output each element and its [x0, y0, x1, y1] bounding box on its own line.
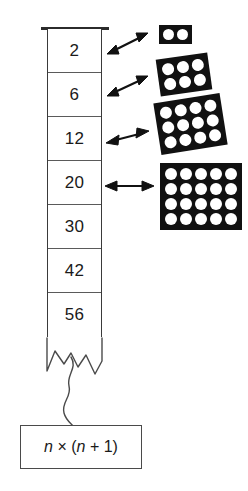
dot — [189, 101, 203, 115]
dot — [159, 106, 173, 120]
number-cell-value: 20 — [65, 173, 85, 193]
dot — [177, 29, 188, 40]
dot — [191, 58, 205, 72]
dot — [210, 213, 222, 225]
formula-n-1: n — [44, 438, 53, 456]
dot — [165, 168, 177, 180]
number-cell-2[interactable]: 6 — [48, 73, 101, 117]
number-cell-4[interactable]: 20 — [48, 161, 101, 205]
dot — [225, 168, 237, 180]
dot — [179, 133, 193, 147]
arrow-to-6 — [102, 70, 154, 102]
formula-n-2: n — [77, 438, 86, 456]
arrow-to-2 — [102, 28, 154, 60]
dot — [164, 135, 178, 149]
formula-box[interactable]: n × (n + 1) — [20, 425, 142, 469]
dot — [195, 183, 207, 195]
dot — [195, 168, 207, 180]
dot — [210, 168, 222, 180]
number-cell-value: 30 — [65, 217, 85, 237]
number-cell-5[interactable]: 30 — [48, 205, 101, 249]
number-cell-value: 6 — [70, 85, 80, 105]
dot-array-12[interactable] — [153, 93, 227, 155]
formula-tail: + 1) — [85, 438, 117, 456]
dot — [204, 99, 218, 113]
dot — [174, 103, 188, 117]
dot — [165, 213, 177, 225]
dot — [176, 118, 190, 132]
dot — [176, 60, 190, 74]
dot-array-6[interactable] — [156, 53, 213, 97]
dot — [193, 73, 207, 87]
dot — [225, 213, 237, 225]
dot — [180, 198, 192, 210]
diagram-canvas: 2 6 12 20 30 42 56 n × (n + 1) — [0, 0, 248, 491]
number-cell-value: 56 — [65, 305, 85, 325]
dot — [180, 183, 192, 195]
dot — [193, 131, 207, 145]
arrow-to-12 — [102, 120, 154, 152]
dot — [165, 183, 177, 195]
formula-operator: × ( — [53, 438, 77, 456]
dot — [163, 29, 174, 40]
dot — [210, 183, 222, 195]
dot — [191, 116, 205, 130]
number-cell-6[interactable]: 42 — [48, 249, 101, 293]
dot — [165, 198, 177, 210]
dot — [180, 213, 192, 225]
dot — [225, 183, 237, 195]
dot — [210, 198, 222, 210]
number-column: 2 6 12 20 30 42 56 — [47, 29, 102, 337]
dot — [195, 213, 207, 225]
dot — [161, 121, 175, 135]
dot — [178, 75, 192, 89]
dot-array-20[interactable] — [160, 163, 242, 230]
dot — [206, 114, 220, 128]
number-cell-3[interactable]: 12 — [48, 117, 101, 161]
number-cell-value: 2 — [70, 41, 80, 61]
number-cell-7[interactable]: 56 — [48, 293, 101, 337]
number-cell-1[interactable]: 2 — [48, 29, 101, 73]
number-cell-value: 42 — [65, 261, 85, 281]
dot — [208, 128, 222, 142]
dot — [161, 62, 175, 76]
arrow-to-20 — [102, 173, 158, 199]
squiggle-connector-line — [45, 355, 115, 430]
dot — [225, 198, 237, 210]
dot — [163, 77, 177, 91]
dot — [180, 168, 192, 180]
dot — [195, 198, 207, 210]
dot-array-2[interactable] — [159, 25, 192, 44]
number-cell-value: 12 — [65, 129, 85, 149]
